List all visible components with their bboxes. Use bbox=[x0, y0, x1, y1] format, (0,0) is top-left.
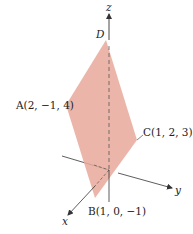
y-axis-label: y bbox=[174, 184, 182, 196]
y-axis bbox=[118, 173, 172, 188]
point-d-label: D bbox=[95, 28, 105, 40]
plane-parallelogram bbox=[66, 40, 137, 198]
point-c-label: C(1, 2, 3) bbox=[143, 126, 193, 138]
point-a-label: A(2, −1, 4) bbox=[15, 99, 74, 111]
parallelogram-plane-diagram: z y x D A(2, −1, 4) C(1, 2, 3) B(1, 0, −… bbox=[0, 0, 193, 234]
point-b-label: B(1, 0, −1) bbox=[88, 205, 146, 217]
z-axis-label: z bbox=[105, 1, 112, 13]
x-axis-label: x bbox=[62, 215, 68, 227]
